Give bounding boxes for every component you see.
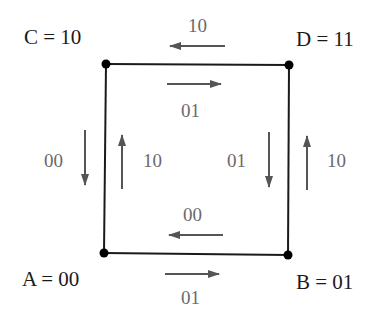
node-label-b: B = 01	[296, 270, 353, 294]
transition-label-a-to-b: 01	[181, 287, 200, 308]
state-diagram: C = 10 D = 11 A = 00 B = 01 10 01 00 01 …	[0, 0, 386, 323]
node-label-a: A = 00	[22, 267, 79, 291]
node-a	[100, 249, 109, 258]
node-label-c: C = 10	[24, 25, 81, 49]
transition-label-c-to-d: 01	[181, 100, 200, 121]
transition-label-c-to-a: 00	[44, 150, 63, 171]
transition-label-a-to-c: 10	[143, 150, 162, 171]
node-d	[285, 61, 294, 70]
transition-label-b-to-d: 10	[327, 150, 346, 171]
node-b	[284, 251, 293, 260]
transition-label-d-to-c: 10	[188, 15, 207, 36]
node-c	[102, 60, 111, 69]
edge-b-a	[104, 253, 288, 255]
node-label-d: D = 11	[296, 27, 354, 51]
edge-c-d	[106, 64, 289, 65]
edge-a-c	[104, 64, 106, 253]
transition-label-d-to-b: 01	[227, 150, 246, 171]
square-edges	[104, 64, 289, 255]
edge-d-b	[288, 65, 289, 255]
transition-label-b-to-a: 00	[183, 204, 202, 225]
